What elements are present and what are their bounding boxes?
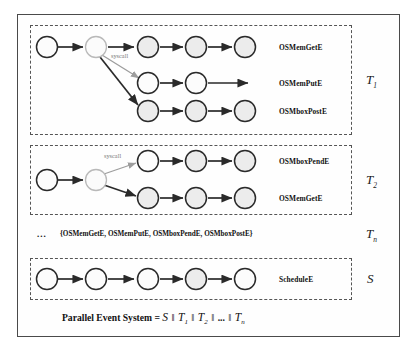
ellipsis-taskn: ...: [37, 229, 47, 239]
formula-par-3: ‖: [210, 311, 215, 323]
formula-par-2: ‖: [190, 311, 195, 323]
formula-tn: Tn: [235, 311, 245, 323]
formula-t1: T1: [178, 311, 188, 323]
formula-t2: T2: [198, 311, 208, 323]
formula-equals: =: [154, 312, 159, 323]
event-label-osmboxpende-t2: OSMboxPendE: [279, 157, 329, 166]
formula-s: S: [162, 311, 168, 323]
task-symbol-s: S: [367, 271, 374, 287]
event-set-taskn: {OSMemGetE, OSMemPutE, OSMboxPendE, OSMb…: [60, 230, 253, 238]
task-symbol-t1: T1: [366, 72, 377, 90]
formula-t2-sub: 2: [204, 318, 208, 326]
task-symbol-tn: Tn: [366, 226, 377, 244]
event-label-schedulee: ScheduleE: [279, 275, 313, 284]
formula-par-4: ‖: [227, 311, 232, 323]
formula-lhs: Parallel Event System: [62, 312, 152, 323]
task-symbol-tn-sub: n: [373, 235, 377, 244]
task-symbol-t2: T2: [366, 172, 377, 190]
formula-t1-sub: 1: [184, 318, 188, 326]
formula-tn-sub: n: [241, 318, 245, 326]
group-box-task2: [30, 145, 352, 215]
diagram-page: syscall syscall OSMemGetE OSMemPutE OSMb…: [0, 0, 416, 350]
formula-par-1: ‖: [171, 311, 176, 323]
event-label-osmemgete-t2: OSMemGetE: [279, 194, 323, 203]
task-symbol-s-letter: S: [367, 271, 374, 286]
task-symbol-t2-sub: 2: [373, 181, 377, 190]
formula-ellipsis: ...: [218, 312, 225, 323]
event-label-osmemgete-t1: OSMemGetE: [279, 43, 323, 52]
event-label-osmempute-t1: OSMemPutE: [279, 79, 322, 88]
syscall-label-task2: syscall: [104, 152, 121, 159]
syscall-label-task1: syscall: [111, 52, 128, 59]
task-symbol-t1-sub: 1: [373, 81, 377, 90]
event-label-osmboxposte-t1: OSMboxPostE: [279, 107, 327, 116]
formula-parallel-event-system: Parallel Event System = S ‖ T1 ‖ T2 ‖ ..…: [62, 311, 245, 326]
